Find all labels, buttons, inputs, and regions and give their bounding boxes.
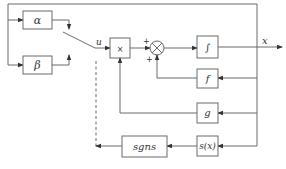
u-signal-label: u [96,37,102,47]
g-block: g [197,103,218,123]
beta-block: β [23,56,52,74]
g-label: g [204,107,210,118]
alpha-label: α [34,14,42,27]
beta-output-arrow [52,55,69,65]
integral-icon: ∫ [205,42,210,53]
integrator-block: ∫ [197,36,218,58]
beta-label: β [33,59,40,72]
switch-arm[interactable] [63,32,110,48]
f-block: f [197,69,218,88]
sgns-block: sgns [122,136,167,157]
sx-block: s(x) [197,136,218,156]
multiply-icon: × [117,45,124,54]
f-output-to-sum-arrow [157,55,197,78]
summing-junction [150,41,164,55]
alpha-output-arrow [52,20,69,29]
x-signal-label: x [262,35,268,46]
alpha-block: α [23,11,52,29]
sum-sign-bottom: + [146,55,153,64]
sx-label: s(x) [199,141,216,151]
sum-sign-top: + [143,37,150,46]
g-output-to-multiplier-arrow [120,58,197,113]
multiplier-block: × [110,38,130,58]
sgns-label: sgns [133,141,156,152]
block-diagram: α β u × + + ∫ x f [0,0,286,169]
